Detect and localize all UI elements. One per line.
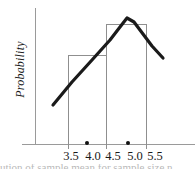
curve-overlay bbox=[0, 0, 195, 169]
x-tick-label-2: 4.5 bbox=[105, 149, 121, 164]
normal-approximation-curve bbox=[53, 18, 163, 105]
caption-fragment-text: ution of sample mean for sample size n bbox=[0, 164, 195, 169]
probability-histogram-figure: Probability 3.5 4.0 4.5 5.0 5.5 ution of… bbox=[0, 0, 195, 169]
marker-dot-4.0 bbox=[85, 141, 89, 145]
x-tick-label-3: 5.0 bbox=[127, 149, 143, 164]
caption-fragment: ution of sample mean for sample size n bbox=[0, 164, 195, 169]
x-tick-label-group: 3.5 4.0 4.5 5.0 5.5 bbox=[0, 149, 195, 165]
marker-dot-5.0 bbox=[126, 141, 130, 145]
x-tick-label-4: 5.5 bbox=[147, 149, 163, 164]
x-tick-label-1: 4.0 bbox=[85, 149, 101, 164]
x-tick-label-0: 3.5 bbox=[63, 149, 79, 164]
